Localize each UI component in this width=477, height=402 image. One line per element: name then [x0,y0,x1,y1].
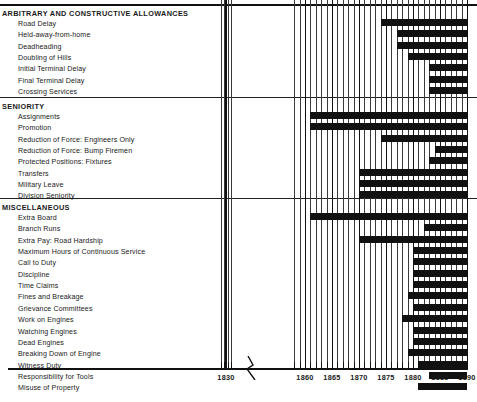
row-label: Dead Engines [18,339,64,347]
axis-tick [424,362,425,368]
axis-tick-label: 1890 [458,373,475,382]
timeline-bar [381,135,467,142]
row-label: Work on Engines [18,316,74,324]
axis-tick-label: 1870 [350,373,367,382]
axis-tick [418,362,419,368]
axis-tick [231,362,232,368]
axis-tick [462,362,463,368]
timeline-bar [310,112,467,119]
axis-tick [386,358,387,368]
timeline-bar [397,42,467,49]
axis-break-zigzag [244,356,260,380]
axis-tick [402,362,403,368]
timeline-bar [418,361,467,368]
row-label: Reduction of Force: Engineers Only [18,136,134,144]
axis-tick-label: 1875 [377,373,394,382]
axis-tick [440,358,441,368]
axis-tick [294,362,295,368]
row-label: Assignments [18,113,60,121]
axis-tick [300,362,301,368]
axis-tick [221,362,222,368]
row-label: Time Claims [18,282,58,290]
row-label: Discipline [18,271,50,279]
timeline-bar [310,213,467,220]
axis-tick [408,362,409,368]
axis-tick [327,362,328,368]
timeline-bar [381,19,467,26]
axis-tick [413,358,414,368]
gridline [348,0,349,368]
row-label: Promotion [18,124,51,132]
timeline-bar [359,180,467,187]
gridline [337,0,338,368]
row-label: Maximum Hours of Continuous Service [18,248,145,256]
timeline-bar [435,146,467,153]
axis-tick [224,362,225,368]
axis-tick [435,362,436,368]
axis-tick [381,362,382,368]
gridline [228,0,229,368]
axis-tick [451,362,452,368]
row-label: Military Leave [18,181,63,189]
gridline [305,0,306,368]
timeline-bar [413,327,467,334]
axis-tick [397,362,398,368]
timeline-bar [429,76,467,83]
row-label: Doubling of Hills [18,54,71,62]
row-label: Extra Board [18,214,57,222]
gridline [354,0,355,368]
axis-tick [445,362,446,368]
axis-tick [321,362,322,368]
axis-tick [343,362,344,368]
timeline-bar [413,281,467,288]
gridline [310,0,311,368]
row-label: Initial Terminal Delay [18,65,86,73]
x-axis: 18301860186518701875188018851890 [0,368,477,402]
axis-tick [467,358,468,368]
gridline [226,0,227,368]
axis-tick-label: 1865 [323,373,340,382]
timeline-bar [413,270,467,277]
timeline-bar [424,224,467,231]
row-label: Branch Runs [18,225,60,233]
row-label-column: ARBITRARY AND CONSTRUCTIVE ALLOWANCESRoa… [0,0,226,368]
axis-tick [359,358,360,368]
timeline-bar [413,258,467,265]
axis-tick [354,362,355,368]
axis-tick [429,362,430,368]
row-label: Reduction of Force: Bump Firemen [18,147,132,155]
timeline-bar [413,304,467,311]
gridline [224,0,225,368]
axis-tick-label: 1830 [217,373,234,382]
axis-tick-label: 1880 [404,373,421,382]
gridline [294,0,295,368]
gridline [332,0,333,368]
gridline [321,0,322,368]
row-label: Transfers [18,170,49,178]
gridline [327,0,328,368]
timeline-bar [413,247,467,254]
section-heading: SENIORITY [2,102,44,111]
row-label: Breaking Down of Engine [18,350,101,358]
axis-tick [332,358,333,368]
axis-tick [370,362,371,368]
timeline-bar [408,292,467,299]
timeline-bar [413,338,467,345]
timeline-bar [359,169,467,176]
row-label: Held-away-from-home [18,31,90,39]
timeline-bar [408,349,467,356]
row-label: Call to Duty [18,259,56,267]
timeline-chart: ARBITRARY AND CONSTRUCTIVE ALLOWANCESRoa… [0,0,477,402]
section-heading: ARBITRARY AND CONSTRUCTIVE ALLOWANCES [2,9,188,18]
axis-tick-label: 1860 [296,373,313,382]
row-label: Watching Engines [18,328,77,336]
axis-tick-label: 1885 [431,373,448,382]
timeline-bar [429,157,467,164]
gridline [300,0,301,368]
row-label: Crossing Services [18,88,77,96]
axis-tick [456,362,457,368]
gridline [467,0,468,368]
timeline-bar [408,53,467,60]
gridline [231,0,232,368]
row-label: Road Delay [18,20,56,28]
